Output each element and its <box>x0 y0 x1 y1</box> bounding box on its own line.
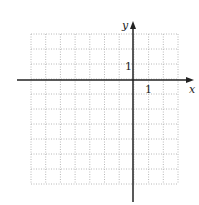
x-axis-label: x <box>189 83 196 96</box>
y-axis-arrow-icon <box>130 21 136 29</box>
coordinate-plane: x y 1 1 <box>0 0 199 205</box>
y-axis-label: y <box>121 19 129 32</box>
y-unit-tick-label: 1 <box>125 60 132 73</box>
x-unit-tick-label: 1 <box>145 83 152 96</box>
grid <box>31 34 178 184</box>
